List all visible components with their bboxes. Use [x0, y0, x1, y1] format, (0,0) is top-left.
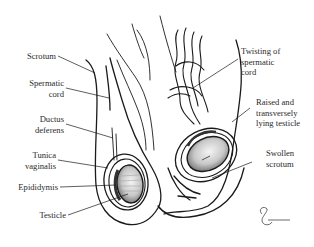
label-spermatic-cord: Spermatic cord [14, 78, 64, 99]
label-twisting-of-spermatic-cord: Twisting of spermatic cord [241, 46, 280, 78]
label-tunica-vaginalis: Tunica vaginalis [4, 150, 56, 171]
label-ductus-deferens: Ductus deferens [14, 114, 64, 135]
leader-lines [58, 56, 252, 215]
artist-signature-icon [260, 207, 290, 224]
label-epididymis: Epididymis [0, 182, 58, 193]
label-testicle: Testicle [20, 210, 66, 221]
label-raised-transverse-testicle: Raised and transversely lying testicle [256, 97, 300, 129]
label-scrotum: Scrotum [16, 51, 56, 62]
normal-spermatic-cord [107, 16, 176, 160]
normal-testicle-group [101, 152, 151, 212]
twisted-spermatic-cord [168, 28, 208, 124]
label-swollen-scrotum: Swollen scrotum [266, 148, 294, 169]
